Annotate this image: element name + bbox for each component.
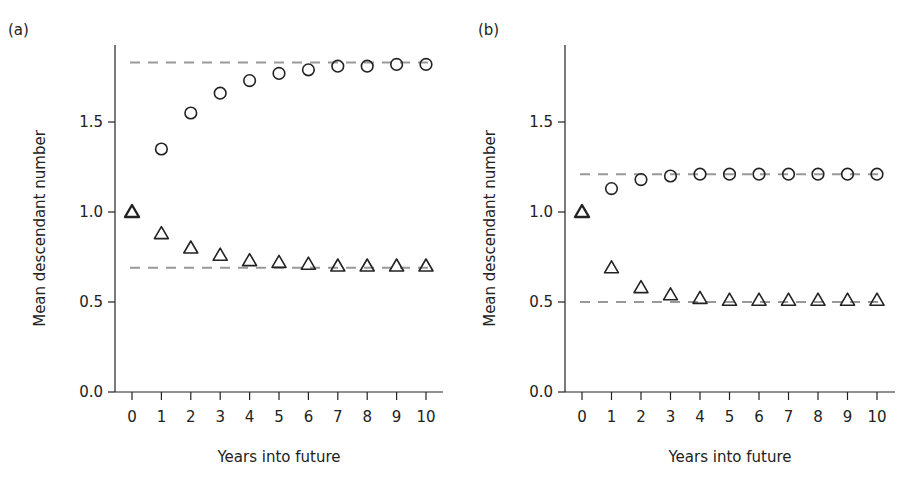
triangle-marker	[272, 255, 286, 267]
x-tick-label: 4	[695, 408, 705, 426]
circle-marker	[244, 75, 256, 87]
x-tick-label: 9	[392, 408, 402, 426]
y-axis-title: Mean descendant number	[481, 129, 499, 326]
x-tick-label: 6	[304, 408, 314, 426]
panel-a: (a)0.00.51.01.5012345678910Years into fu…	[8, 21, 443, 466]
x-tick-label: 7	[333, 408, 343, 426]
y-tick-label: 0.5	[529, 293, 553, 311]
circle-marker	[156, 143, 168, 155]
triangle-marker	[243, 254, 257, 266]
x-tick-label: 2	[186, 408, 196, 426]
triangle-marker	[213, 248, 227, 260]
circle-marker	[420, 59, 432, 71]
triangle-marker	[419, 259, 433, 271]
y-tick-label: 0.0	[529, 383, 553, 401]
triangle-marker	[390, 259, 404, 271]
x-tick-label: 7	[784, 408, 794, 426]
triangle-marker	[870, 293, 884, 305]
triangle-marker	[841, 293, 855, 305]
circle-marker	[635, 174, 647, 186]
triangle-marker	[184, 241, 198, 253]
panel-label: (a)	[8, 21, 29, 39]
circle-marker	[665, 170, 677, 182]
triangle-marker	[811, 293, 825, 305]
x-tick-label: 5	[274, 408, 284, 426]
x-tick-label: 1	[607, 408, 617, 426]
triangle-marker	[723, 293, 737, 305]
x-tick-label: 3	[666, 408, 676, 426]
y-tick-label: 0.5	[79, 293, 103, 311]
circle-marker	[214, 87, 226, 99]
triangle-marker	[782, 293, 796, 305]
x-tick-label: 3	[215, 408, 225, 426]
x-tick-label: 6	[754, 408, 764, 426]
x-tick-label: 2	[636, 408, 646, 426]
y-axis-title: Mean descendant number	[31, 129, 49, 326]
x-tick-label: 4	[245, 408, 255, 426]
y-tick-label: 1.5	[529, 113, 553, 131]
x-tick-label: 10	[416, 408, 435, 426]
x-tick-label: 0	[577, 408, 587, 426]
circle-marker	[185, 107, 197, 119]
figure: (a)0.00.51.01.5012345678910Years into fu…	[0, 0, 923, 487]
x-tick-label: 8	[813, 408, 823, 426]
circle-marker	[273, 68, 285, 80]
panel-label: (b)	[478, 21, 499, 39]
x-tick-label: 5	[725, 408, 735, 426]
y-tick-label: 1.0	[529, 203, 553, 221]
x-tick-label: 9	[843, 408, 853, 426]
circle-marker	[391, 59, 403, 71]
triangle-marker	[360, 259, 374, 271]
triangle-marker	[752, 293, 766, 305]
triangle-marker	[634, 281, 648, 293]
panel-b: (b)0.00.51.01.5012345678910Years into fu…	[478, 21, 895, 466]
x-tick-label: 1	[157, 408, 167, 426]
triangle-marker	[125, 205, 139, 217]
x-tick-label: 10	[867, 408, 886, 426]
triangle-marker	[575, 205, 589, 217]
triangle-marker	[331, 259, 345, 271]
x-tick-label: 0	[127, 408, 137, 426]
x-axis-title: Years into future	[667, 448, 791, 466]
x-axis-title: Years into future	[216, 448, 340, 466]
circle-marker	[606, 183, 618, 195]
y-tick-label: 1.5	[79, 113, 103, 131]
y-tick-label: 1.0	[79, 203, 103, 221]
x-tick-label: 8	[362, 408, 372, 426]
triangle-marker	[154, 227, 168, 239]
circle-marker	[303, 64, 315, 76]
triangle-marker	[605, 261, 619, 273]
triangle-marker	[664, 288, 678, 300]
y-tick-label: 0.0	[79, 383, 103, 401]
